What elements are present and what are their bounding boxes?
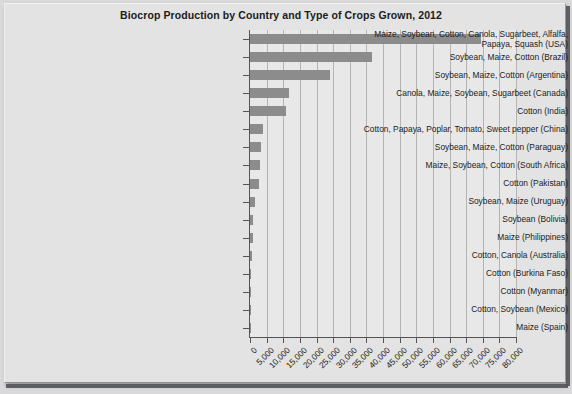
chart-figure: Biocrop Production by Country and Type o… bbox=[0, 0, 572, 394]
y-axis-label: Canola, Maize, Soybean, Sugarbeet (Canad… bbox=[327, 88, 572, 98]
y-axis-label: Maize, Soybean, Cotton (South Africa) bbox=[327, 160, 572, 170]
y-axis-label: Cotton (Myanmar) bbox=[327, 286, 572, 296]
y-axis-tick bbox=[243, 39, 249, 40]
y-axis-tick bbox=[243, 220, 249, 221]
bar bbox=[250, 179, 259, 189]
x-axis-tick bbox=[267, 338, 268, 343]
y-axis-label: Cotton, Soybean (Mexico) bbox=[327, 304, 572, 314]
y-axis-label: Maize, Soybean, Cotton, Canola, Sugarbee… bbox=[327, 29, 572, 49]
y-axis-tick bbox=[243, 75, 249, 76]
y-axis-label: Cotton (Burkina Faso) bbox=[327, 268, 572, 278]
y-axis-tick bbox=[243, 147, 249, 148]
bar bbox=[250, 70, 330, 80]
y-axis-tick bbox=[243, 256, 249, 257]
bar bbox=[250, 287, 251, 297]
bar bbox=[250, 160, 260, 170]
y-axis-tick bbox=[243, 111, 249, 112]
y-axis-tick bbox=[243, 184, 249, 185]
y-axis-tick bbox=[243, 310, 249, 311]
y-axis-tick bbox=[243, 328, 249, 329]
y-axis-line bbox=[249, 30, 250, 338]
y-axis-tick bbox=[243, 57, 249, 58]
y-axis-tick bbox=[243, 238, 249, 239]
bar bbox=[250, 233, 253, 243]
y-axis-label: Soybean, Maize, Cotton (Argentina) bbox=[327, 70, 572, 80]
y-axis-label: Maize (Philippines) bbox=[327, 232, 572, 242]
y-axis-label: Cotton (Pakistan) bbox=[327, 178, 572, 188]
y-axis-tick bbox=[243, 93, 249, 94]
y-axis-label: Soybean, Maize (Uruguay) bbox=[327, 196, 572, 206]
bar bbox=[250, 197, 255, 207]
chart-title: Biocrop Production by Country and Type o… bbox=[0, 9, 562, 21]
bar bbox=[250, 269, 251, 279]
bar bbox=[250, 88, 289, 98]
y-axis-label: Cotton (India) bbox=[327, 106, 572, 116]
y-axis-label: Soybean (Bolivia) bbox=[327, 214, 572, 224]
y-axis-tick bbox=[243, 202, 249, 203]
bar bbox=[250, 215, 253, 225]
y-axis-tick bbox=[243, 292, 249, 293]
y-axis-tick bbox=[243, 165, 249, 166]
x-axis-tick bbox=[250, 338, 251, 343]
y-axis-tick bbox=[243, 274, 249, 275]
y-axis-label: Soybean, Maize, Cotton (Paraguay) bbox=[327, 142, 572, 152]
y-axis-label: Soybean, Maize, Cotton (Brazil) bbox=[327, 52, 572, 62]
y-axis-label: Cotton, Canola (Australia) bbox=[327, 250, 572, 260]
y-axis-tick bbox=[243, 129, 249, 130]
bar bbox=[250, 251, 252, 261]
bar bbox=[250, 323, 251, 333]
panel-shadow-bottom bbox=[6, 384, 568, 388]
bar bbox=[250, 124, 263, 134]
bar bbox=[250, 305, 251, 315]
y-axis-label: Cotton, Papaya, Poplar, Tomato, Sweet pe… bbox=[327, 124, 572, 134]
bar bbox=[250, 106, 286, 116]
bar bbox=[250, 142, 261, 152]
